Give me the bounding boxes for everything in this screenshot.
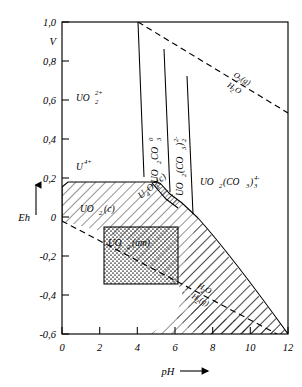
species-uo2co3-2-base3: ) <box>175 143 186 147</box>
species-uo2co3-2-sup: 2- <box>172 137 179 143</box>
boundary-carbonate-divider-1 <box>138 22 144 177</box>
species-uo2co3-sub2: 3 <box>155 137 162 142</box>
boundary-carbonate-divider-3 <box>187 76 193 214</box>
x-tick-label-3: 4 <box>135 342 141 353</box>
species-label-uo2-co3-2: UO 2 (CO 3 ) 2 2- <box>172 137 187 197</box>
species-uo2co3-2-base2: (CO <box>175 157 186 174</box>
x-tick-label-6: 10 <box>245 342 256 353</box>
species-label-uo2co3-0: UO 2 CO 3 0 <box>147 137 162 183</box>
y-axis-title: Eh <box>17 212 30 223</box>
species-uo2-2plus-sub: 2 <box>95 98 99 105</box>
y-tick-label-3: 0,6 <box>43 95 57 106</box>
species-u-4plus-base: U <box>76 162 84 172</box>
y-tick-label-6: 0 <box>51 212 57 223</box>
species-label-uo2-2plus: UO 2 2+ <box>76 89 103 105</box>
species-uo2co3-sup: 0 <box>147 137 154 141</box>
eh-ph-diagram-figure: 1,0 0,8 0,6 0,4 0,2 0 -0,2 -0,4 -0,6 0 2… <box>0 0 302 387</box>
species-uo2-2plus-base: UO <box>76 93 90 103</box>
species-uo2co3-3-sub3: 3 <box>253 182 258 189</box>
diagram-canvas: 1,0 0,8 0,6 0,4 0,2 0 -0,2 -0,4 -0,6 0 2… <box>0 0 302 387</box>
y-tick-label-7: -0,2 <box>39 251 56 262</box>
x-tick-label-7: 12 <box>283 342 294 353</box>
species-uo2-2plus-sup: 2+ <box>95 89 103 96</box>
y-axis-unit-label: V <box>50 36 58 47</box>
y-tick-label-1: 1,0 <box>43 17 57 28</box>
species-uo2-c-base: UO <box>80 204 94 214</box>
x-tick-label-2: 2 <box>97 342 103 353</box>
x-axis-title: pH <box>161 366 176 377</box>
species-uo2co3-3-sup: 4- <box>254 174 260 181</box>
y-tick-label-9: -0,6 <box>39 329 56 340</box>
x-tick-label-5: 8 <box>210 342 216 353</box>
species-label-u-4plus: U 4+ <box>76 158 92 172</box>
y-tick-label-4: 0,4 <box>43 134 57 145</box>
x-tick-label-4: 6 <box>172 342 178 353</box>
species-u-4plus-sup: 4+ <box>84 158 92 165</box>
y-tick-label-5: 0,2 <box>43 173 57 184</box>
species-uo2-c-tail: (c) <box>104 204 115 215</box>
y-tick-labels: 1,0 0,8 0,6 0,4 0,2 0 -0,2 -0,4 -0,6 <box>39 17 56 340</box>
label-o2g-h2o: O 2 (g) H 2 O <box>224 70 252 99</box>
x-tick-labels: 0 2 4 6 8 10 12 <box>59 342 294 353</box>
species-uo2co3-3-base2: (CO <box>223 177 240 188</box>
species-uo2co3-2-base: UO <box>175 182 185 196</box>
species-uo2co3-3-base: UO <box>200 177 214 187</box>
y-tick-label-2: 0,8 <box>43 56 57 67</box>
species-uo2co3-base: UO <box>150 169 160 183</box>
species-label-uo2-co3-3: UO 2 (CO 3 ) 3 4- <box>200 174 260 189</box>
label-o2-paren: (g) <box>239 75 252 88</box>
y-tick-label-8: -0,4 <box>39 290 56 301</box>
label-h2o-upper-tail: O <box>233 85 243 96</box>
species-uo2-am-base: UO <box>108 238 122 248</box>
species-uo2-am-tail: (am) <box>132 238 150 249</box>
x-tick-label-1: 0 <box>59 342 65 353</box>
species-uo2co3-base2: CO <box>150 147 160 160</box>
species-uo2co3-3-base3: ) <box>249 177 253 188</box>
line-o2g-h2o-upper <box>138 22 288 113</box>
boundary-carbonate-divider-2 <box>164 49 170 192</box>
species-uo2co3-2-sub3: 2 <box>180 138 187 142</box>
